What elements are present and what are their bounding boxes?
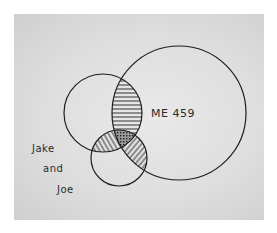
label-me459: ME 459 — [151, 107, 195, 120]
venn-diagram — [0, 0, 277, 233]
label-joe: Joe — [57, 184, 74, 195]
region-left-me459 — [0, 0, 277, 233]
label-jake: Jake — [32, 143, 55, 154]
label-and: and — [43, 163, 63, 174]
